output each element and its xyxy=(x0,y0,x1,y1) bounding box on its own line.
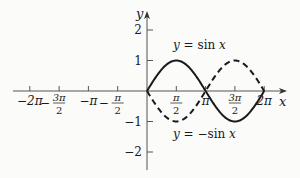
x-tick-numerator: π xyxy=(172,92,180,103)
x-tick-numerator: 3π xyxy=(53,92,66,103)
chart-plot: x y −2π3π2−−ππ2−π2π3π22π 21−1−2 y = sin … xyxy=(0,0,300,178)
x-tick-denominator: 2 xyxy=(173,105,179,116)
x-tick-sign: − xyxy=(40,96,50,110)
x-tick-denominator: 2 xyxy=(115,105,121,116)
y-tick-label: −1 xyxy=(124,115,142,129)
y-tick-label: 2 xyxy=(134,23,142,37)
x-tick-numerator: π xyxy=(113,92,121,103)
x-tick-denominator: 2 xyxy=(232,105,238,116)
x-tick-sign: − xyxy=(99,96,109,110)
x-axis-label: x xyxy=(279,94,287,109)
y-tick-label: −2 xyxy=(124,145,142,159)
annotation-neg-sin-x: y = −sin x xyxy=(172,127,236,141)
annotation-sin-x: y = sin x xyxy=(172,38,226,52)
x-tick-denominator: 2 xyxy=(56,105,62,116)
y-tick-label: 1 xyxy=(134,54,142,68)
x-tick-numerator: 3π xyxy=(228,92,241,103)
x-tick-label: −π xyxy=(79,94,98,108)
y-axis-label: y xyxy=(135,6,144,21)
